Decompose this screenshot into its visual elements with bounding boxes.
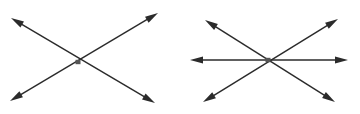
intersection-point (266, 58, 271, 62)
intersecting-lines-diagram (0, 0, 360, 114)
intersection-point (76, 60, 81, 64)
diagram-background (0, 0, 360, 114)
